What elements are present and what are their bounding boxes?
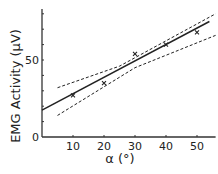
data-point-marker [133, 52, 137, 56]
confidence-band [58, 14, 216, 88]
chart: 1020304050050 EMG Activity (μV) α (°) [0, 0, 218, 174]
regression-line [42, 22, 209, 111]
confidence-band [58, 35, 216, 115]
data-point-marker [102, 81, 106, 85]
x-axis-title: α (°) [105, 151, 134, 166]
y-tick-label: 50 [25, 54, 39, 67]
y-tick-label: 0 [32, 131, 39, 144]
x-tick-label: 50 [190, 140, 204, 153]
y-axis-title: EMG Activity (μV) [8, 29, 23, 143]
data-point-marker [195, 30, 199, 34]
x-tick-label: 40 [159, 140, 173, 153]
axes: 1020304050050 [25, 9, 216, 153]
plot-area [42, 14, 216, 116]
x-tick-label: 10 [66, 140, 80, 153]
